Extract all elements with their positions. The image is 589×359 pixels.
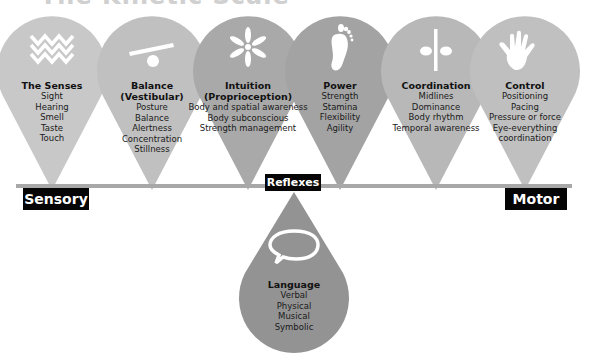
drop-item: Positioning (460, 91, 589, 102)
drop-item: Symbolic (229, 322, 359, 333)
drop-item: coordination (460, 133, 589, 144)
motor-tag: Motor (505, 188, 567, 210)
drop-item: Stillness (87, 144, 217, 155)
sensory-tag: Sensory (23, 188, 89, 210)
drop-item: Concentration (87, 134, 217, 145)
drop-item: Eye-everything (460, 123, 589, 134)
drop-label-control: Control Positioning Pacing Pressure or f… (460, 80, 589, 144)
drop-item: Pressure or force (460, 112, 589, 123)
drop-item: Musical (229, 311, 359, 322)
drop-heading: Control (460, 80, 589, 91)
drop-item: Verbal (229, 290, 359, 301)
drop-label-language: Language Verbal Physical Musical Symboli… (229, 279, 359, 332)
drop-item: Pacing (460, 102, 589, 113)
reflexes-tag: Reflexes (265, 174, 321, 191)
drop-heading: Language (229, 279, 359, 290)
drop-item: Physical (229, 301, 359, 312)
